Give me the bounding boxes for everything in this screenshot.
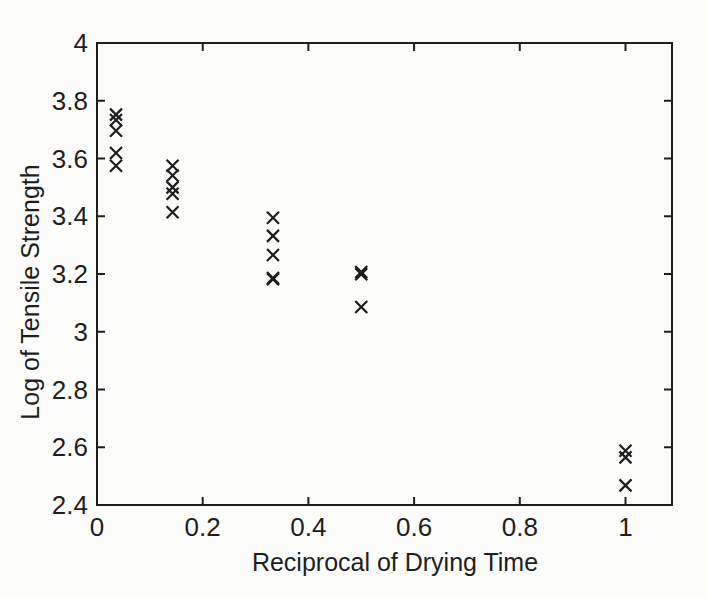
data-point-marker — [267, 212, 279, 224]
data-point-marker — [267, 249, 279, 261]
data-point-marker — [355, 301, 367, 313]
data-point-marker — [619, 451, 631, 463]
y-tick-label: 3.4 — [52, 201, 88, 231]
scatter-plot: 00.20.40.60.81 2.42.62.833.23.43.63.84 R… — [0, 0, 708, 598]
y-tick-label: 3 — [74, 317, 88, 347]
y-axis-tick-labels: 2.42.62.833.23.43.63.84 — [52, 28, 88, 520]
scatter-figure: 00.20.40.60.81 2.42.62.833.23.43.63.84 R… — [0, 0, 708, 598]
y-tick-label: 3.2 — [52, 259, 88, 289]
y-tick-label: 4 — [74, 28, 88, 58]
data-point-marker — [355, 268, 367, 280]
x-axis-tick-labels: 00.20.40.60.81 — [90, 512, 633, 542]
data-point-marker — [355, 266, 367, 278]
x-tick-label: 0.4 — [290, 512, 326, 542]
data-point-marker — [110, 160, 122, 172]
data-point-marker — [267, 273, 279, 285]
x-tick-label: 0.8 — [502, 512, 538, 542]
x-tick-label: 0 — [90, 512, 104, 542]
x-tick-label: 0.2 — [185, 512, 221, 542]
data-point-marker — [619, 445, 631, 457]
data-point-marker — [167, 206, 179, 218]
data-point-marker — [167, 170, 179, 182]
data-point-marker — [619, 479, 631, 491]
y-axis-label: Log of Tensile Strength — [16, 164, 44, 419]
data-point-marker — [267, 230, 279, 242]
data-point-marker — [110, 147, 122, 159]
data-point-marker — [167, 188, 179, 200]
y-tick-label: 3.6 — [52, 144, 88, 174]
y-tick-label: 2.4 — [52, 490, 88, 520]
y-tick-label: 3.8 — [52, 86, 88, 116]
data-point-marker — [167, 181, 179, 193]
y-tick-label: 2.6 — [52, 432, 88, 462]
axis-ticks — [97, 43, 672, 505]
x-tick-label: 1 — [618, 512, 632, 542]
x-axis-label: Reciprocal of Drying Time — [252, 548, 538, 576]
plot-area-border — [97, 43, 672, 505]
data-points — [110, 109, 631, 492]
x-tick-label: 0.6 — [396, 512, 432, 542]
data-point-marker — [110, 125, 122, 137]
y-tick-label: 2.8 — [52, 375, 88, 405]
